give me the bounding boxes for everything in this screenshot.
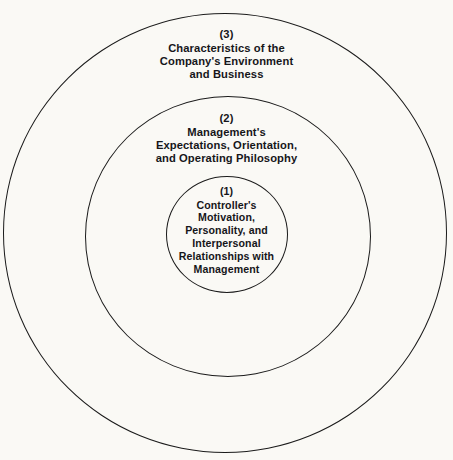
outer-ring-number: (3) [0,28,453,42]
inner-ring-label: (1) Controller's Motivation, Personality… [0,185,453,275]
middle-ring-number: (2) [0,112,453,126]
inner-ring-line-3: Personality, and [0,224,453,237]
outer-ring-label: (3) Characteristics of the Company's Env… [0,28,453,81]
inner-ring-line-6: Management [0,263,453,276]
middle-ring-line-1: Management's [0,126,453,139]
inner-ring-line-5: Relationships with [0,250,453,263]
concentric-circle-diagram: (3) Characteristics of the Company's Env… [0,0,453,460]
middle-ring-line-2: Expectations, Orientation, [0,139,453,152]
inner-ring-line-2: Motivation, [0,211,453,224]
inner-ring-line-4: Interpersonal [0,237,453,250]
middle-ring-label: (2) Management's Expectations, Orientati… [0,112,453,165]
outer-ring-line-3: and Business [0,68,453,81]
middle-ring-line-3: and Operating Philosophy [0,152,453,165]
outer-ring-line-1: Characteristics of the [0,42,453,55]
outer-ring-line-2: Company's Environment [0,55,453,68]
inner-ring-number: (1) [0,185,453,199]
inner-ring-line-1: Controller's [0,199,453,212]
